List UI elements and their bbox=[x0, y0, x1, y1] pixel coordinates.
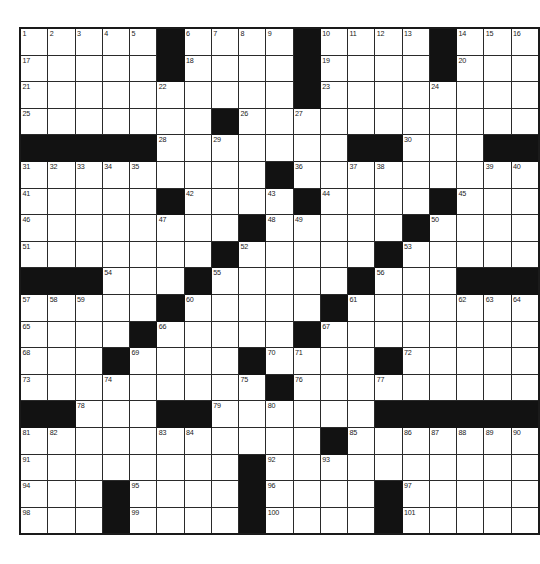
crossword-cell[interactable] bbox=[211, 161, 238, 188]
crossword-cell[interactable]: 37 bbox=[348, 161, 375, 188]
crossword-cell[interactable] bbox=[348, 55, 375, 82]
crossword-cell[interactable]: 80 bbox=[266, 401, 293, 428]
crossword-cell[interactable] bbox=[293, 294, 320, 321]
crossword-cell[interactable]: 88 bbox=[457, 427, 484, 454]
crossword-cell[interactable] bbox=[320, 401, 347, 428]
crossword-cell[interactable] bbox=[429, 481, 456, 508]
crossword-cell[interactable]: 17 bbox=[20, 55, 48, 82]
crossword-cell[interactable]: 42 bbox=[184, 188, 211, 215]
crossword-cell[interactable]: 26 bbox=[239, 108, 266, 135]
crossword-cell[interactable] bbox=[102, 241, 129, 268]
crossword-cell[interactable]: 35 bbox=[130, 161, 157, 188]
crossword-cell[interactable]: 100 bbox=[266, 507, 293, 534]
crossword-cell[interactable] bbox=[484, 374, 511, 401]
crossword-cell[interactable] bbox=[348, 108, 375, 135]
crossword-cell[interactable] bbox=[75, 427, 102, 454]
crossword-cell[interactable]: 25 bbox=[20, 108, 48, 135]
crossword-cell[interactable]: 61 bbox=[348, 294, 375, 321]
crossword-cell[interactable]: 6 bbox=[184, 28, 211, 55]
crossword-cell[interactable]: 33 bbox=[75, 161, 102, 188]
crossword-cell[interactable]: 73 bbox=[20, 374, 48, 401]
crossword-cell[interactable]: 22 bbox=[157, 82, 184, 109]
crossword-cell[interactable] bbox=[402, 108, 429, 135]
crossword-cell[interactable] bbox=[320, 481, 347, 508]
crossword-cell[interactable] bbox=[130, 427, 157, 454]
crossword-cell[interactable]: 51 bbox=[20, 241, 48, 268]
crossword-cell[interactable]: 36 bbox=[293, 161, 320, 188]
crossword-cell[interactable] bbox=[348, 374, 375, 401]
crossword-cell[interactable]: 99 bbox=[130, 507, 157, 534]
crossword-cell[interactable] bbox=[484, 241, 511, 268]
crossword-cell[interactable]: 57 bbox=[20, 294, 48, 321]
crossword-cell[interactable] bbox=[184, 241, 211, 268]
crossword-cell[interactable]: 76 bbox=[293, 374, 320, 401]
crossword-cell[interactable] bbox=[75, 215, 102, 242]
crossword-cell[interactable] bbox=[457, 161, 484, 188]
crossword-cell[interactable]: 34 bbox=[102, 161, 129, 188]
crossword-cell[interactable]: 95 bbox=[130, 481, 157, 508]
crossword-cell[interactable] bbox=[239, 321, 266, 348]
crossword-cell[interactable] bbox=[48, 348, 75, 375]
crossword-cell[interactable]: 50 bbox=[429, 215, 456, 242]
crossword-cell[interactable] bbox=[48, 454, 75, 481]
crossword-cell[interactable] bbox=[75, 188, 102, 215]
crossword-cell[interactable]: 38 bbox=[375, 161, 402, 188]
crossword-cell[interactable] bbox=[239, 188, 266, 215]
crossword-cell[interactable] bbox=[484, 188, 511, 215]
crossword-cell[interactable] bbox=[211, 481, 238, 508]
crossword-cell[interactable]: 82 bbox=[48, 427, 75, 454]
crossword-cell[interactable] bbox=[429, 348, 456, 375]
crossword-cell[interactable] bbox=[484, 507, 511, 534]
crossword-cell[interactable] bbox=[130, 454, 157, 481]
crossword-cell[interactable] bbox=[348, 481, 375, 508]
crossword-cell[interactable] bbox=[293, 401, 320, 428]
crossword-cell[interactable]: 74 bbox=[102, 374, 129, 401]
crossword-cell[interactable] bbox=[48, 241, 75, 268]
crossword-cell[interactable] bbox=[102, 454, 129, 481]
crossword-cell[interactable] bbox=[402, 321, 429, 348]
crossword-cell[interactable]: 44 bbox=[320, 188, 347, 215]
crossword-cell[interactable]: 40 bbox=[511, 161, 539, 188]
crossword-cell[interactable] bbox=[266, 108, 293, 135]
crossword-cell[interactable] bbox=[511, 348, 539, 375]
crossword-cell[interactable] bbox=[511, 374, 539, 401]
crossword-cell[interactable] bbox=[457, 82, 484, 109]
crossword-cell[interactable] bbox=[293, 135, 320, 162]
crossword-cell[interactable] bbox=[102, 82, 129, 109]
crossword-cell[interactable] bbox=[402, 374, 429, 401]
crossword-cell[interactable] bbox=[429, 374, 456, 401]
crossword-cell[interactable] bbox=[375, 321, 402, 348]
crossword-cell[interactable] bbox=[429, 294, 456, 321]
crossword-cell[interactable] bbox=[402, 454, 429, 481]
crossword-cell[interactable] bbox=[511, 481, 539, 508]
crossword-cell[interactable] bbox=[48, 188, 75, 215]
crossword-cell[interactable] bbox=[211, 294, 238, 321]
crossword-cell[interactable] bbox=[320, 108, 347, 135]
crossword-cell[interactable]: 55 bbox=[211, 268, 238, 295]
crossword-cell[interactable] bbox=[184, 215, 211, 242]
crossword-cell[interactable] bbox=[348, 454, 375, 481]
crossword-cell[interactable] bbox=[511, 454, 539, 481]
crossword-cell[interactable] bbox=[320, 348, 347, 375]
crossword-cell[interactable] bbox=[429, 161, 456, 188]
crossword-cell[interactable] bbox=[293, 268, 320, 295]
crossword-cell[interactable]: 78 bbox=[75, 401, 102, 428]
crossword-cell[interactable] bbox=[157, 507, 184, 534]
crossword-cell[interactable]: 31 bbox=[20, 161, 48, 188]
crossword-cell[interactable] bbox=[130, 268, 157, 295]
crossword-cell[interactable]: 98 bbox=[20, 507, 48, 534]
crossword-cell[interactable] bbox=[457, 215, 484, 242]
crossword-cell[interactable]: 79 bbox=[211, 401, 238, 428]
crossword-cell[interactable] bbox=[211, 55, 238, 82]
crossword-cell[interactable] bbox=[293, 427, 320, 454]
crossword-cell[interactable] bbox=[102, 55, 129, 82]
crossword-cell[interactable] bbox=[184, 108, 211, 135]
crossword-cell[interactable]: 101 bbox=[402, 507, 429, 534]
crossword-cell[interactable] bbox=[375, 215, 402, 242]
crossword-cell[interactable]: 41 bbox=[20, 188, 48, 215]
crossword-cell[interactable]: 14 bbox=[457, 28, 484, 55]
crossword-cell[interactable]: 90 bbox=[511, 427, 539, 454]
crossword-cell[interactable] bbox=[511, 241, 539, 268]
crossword-cell[interactable] bbox=[130, 82, 157, 109]
crossword-cell[interactable] bbox=[511, 507, 539, 534]
